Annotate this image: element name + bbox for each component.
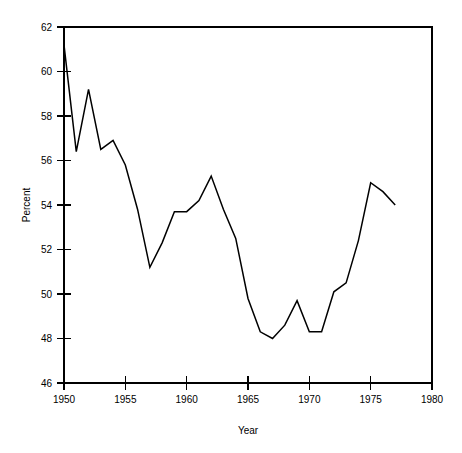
plot-frame: [64, 27, 432, 383]
x-tick-label: 1980: [421, 394, 444, 405]
x-tick-label: 1960: [176, 394, 199, 405]
x-axis-title: Year: [238, 425, 259, 436]
y-axis: 464850525456586062: [41, 22, 71, 389]
x-tick-label: 1950: [53, 394, 76, 405]
data-series-percent: [64, 45, 395, 339]
y-tick-label: 52: [41, 244, 53, 255]
x-tick-label: 1970: [298, 394, 321, 405]
x-axis: 1950195519601965197019751980: [53, 376, 444, 405]
y-tick-label: 48: [41, 333, 53, 344]
y-tick-label: 56: [41, 155, 53, 166]
y-tick-label: 54: [41, 200, 53, 211]
x-tick-label: 1965: [237, 394, 260, 405]
y-tick-label: 58: [41, 111, 53, 122]
y-tick-label: 50: [41, 289, 53, 300]
y-tick-label: 62: [41, 22, 53, 33]
x-tick-label: 1955: [114, 394, 137, 405]
line-chart: 464850525456586062 195019551960196519701…: [0, 0, 462, 453]
chart-canvas: 464850525456586062 195019551960196519701…: [0, 0, 462, 453]
y-tick-label: 60: [41, 66, 53, 77]
y-axis-title: Percent: [21, 188, 32, 223]
y-tick-label: 46: [41, 378, 53, 389]
x-tick-label: 1975: [360, 394, 383, 405]
